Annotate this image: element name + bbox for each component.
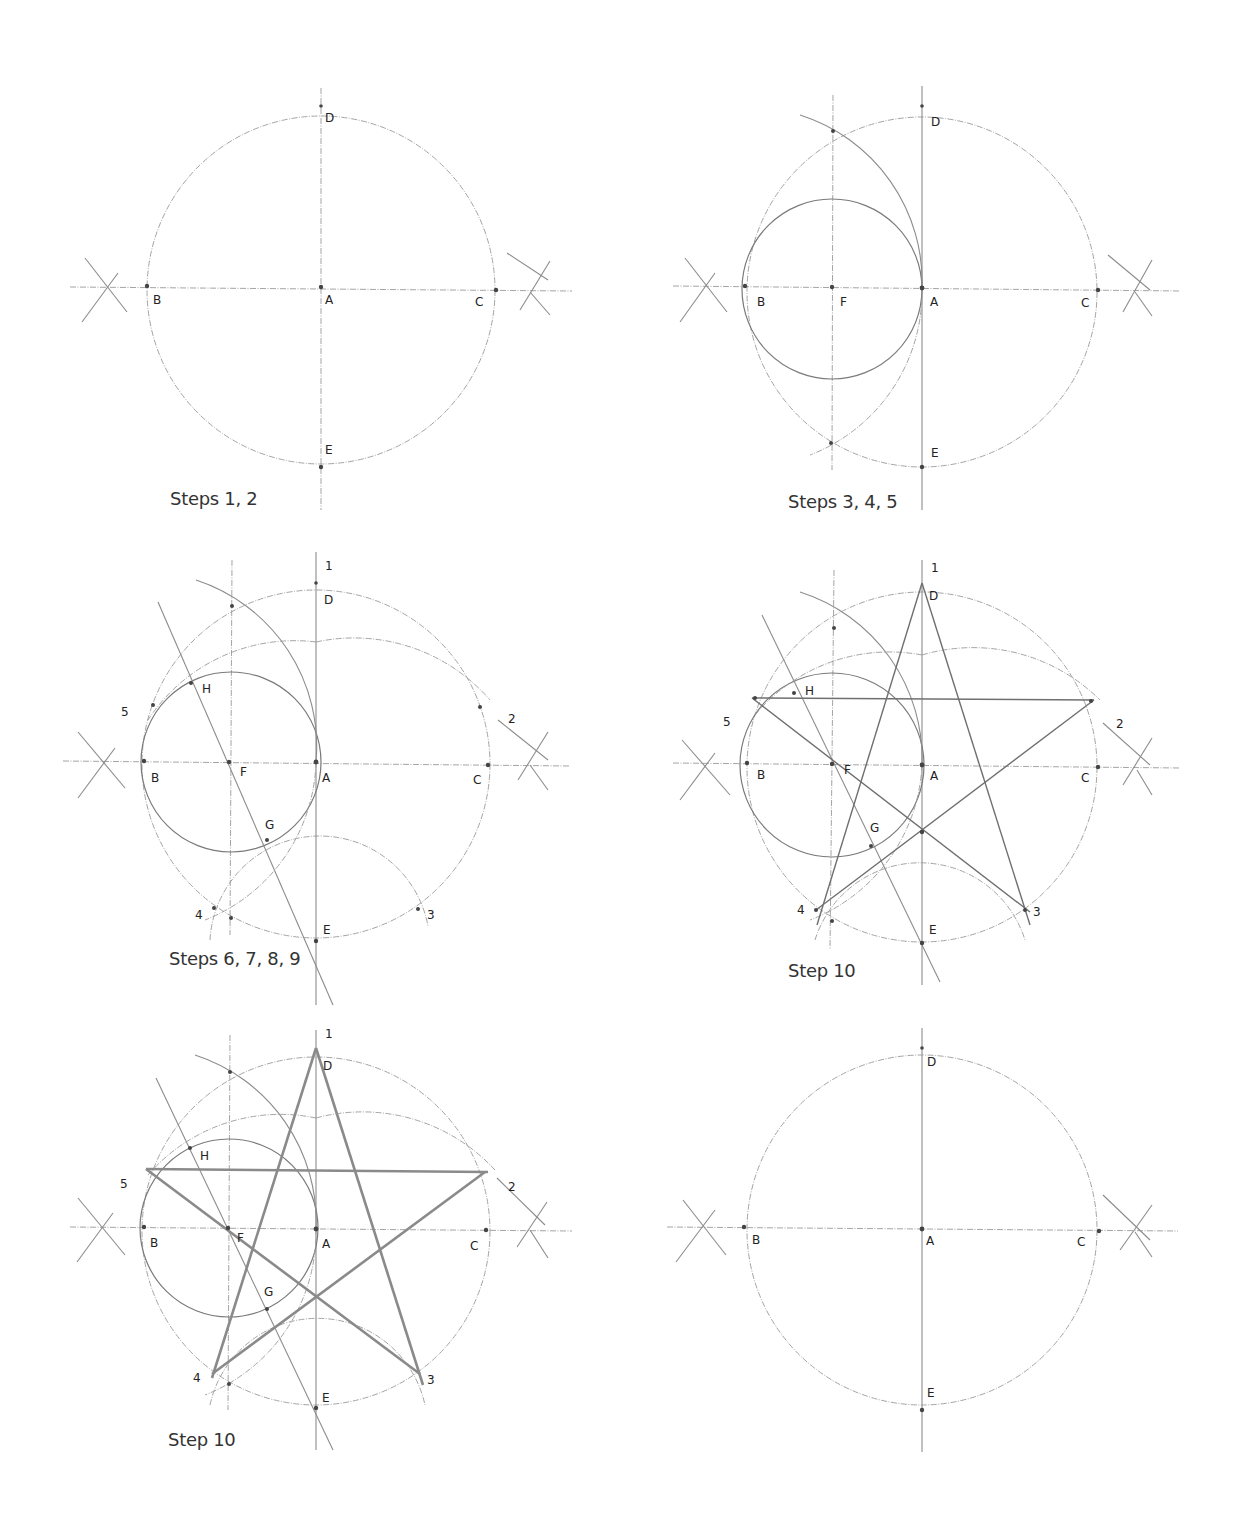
label-c: C xyxy=(1081,772,1089,784)
label-d: D xyxy=(927,1056,936,1068)
caption: Steps 3, 4, 5 xyxy=(788,491,897,512)
perpendicular-bisector-f xyxy=(832,95,833,470)
label-5: 5 xyxy=(120,1178,128,1190)
arc-cross-left xyxy=(680,258,727,322)
arc-cross-right xyxy=(1103,723,1152,795)
point-d xyxy=(319,104,323,108)
star-center-intersection xyxy=(920,830,924,834)
arc-intersection-top xyxy=(831,129,835,133)
arc-cross-right xyxy=(1103,1195,1152,1257)
label-b: B xyxy=(153,294,161,306)
arc-cross-right xyxy=(1108,255,1152,316)
point-2 xyxy=(1089,699,1093,703)
label-1: 1 xyxy=(931,562,939,574)
point-a xyxy=(314,1227,319,1232)
point-a xyxy=(314,760,319,765)
label-c: C xyxy=(475,296,483,308)
panel-blank-circle: D B A C E xyxy=(600,1000,1234,1523)
line-through-f-g-h xyxy=(158,602,333,1005)
label-c: C xyxy=(1077,1236,1085,1248)
point-g xyxy=(265,1307,269,1311)
arc-from-b-upper xyxy=(800,115,922,289)
point-4 xyxy=(814,908,818,912)
label-a: A xyxy=(930,296,938,308)
panel-steps-6-7-8-9: 1 D H 5 2 B F A C G 4 3 E Steps 6, 7, 8,… xyxy=(0,520,617,1000)
label-a: A xyxy=(322,772,330,784)
arc-to-point-5 xyxy=(148,1114,316,1175)
caption: Step 10 xyxy=(788,960,856,981)
point-3 xyxy=(1023,908,1027,912)
label-b: B xyxy=(150,1237,158,1249)
label-d: D xyxy=(324,594,333,606)
label-f: F xyxy=(240,766,247,778)
arc-intersection-top xyxy=(230,604,234,608)
construction-drawing xyxy=(600,1000,1234,1523)
point-a xyxy=(319,285,323,289)
label-3: 3 xyxy=(1033,906,1041,918)
arc-cross-right xyxy=(498,720,548,790)
caption: Steps 1, 2 xyxy=(170,488,257,509)
panel-steps-1-2: D B A C E Steps 1, 2 xyxy=(0,0,617,520)
label-c: C xyxy=(473,774,481,786)
caption: Steps 6, 7, 8, 9 xyxy=(169,948,300,969)
point-h xyxy=(189,681,193,685)
label-3: 3 xyxy=(427,1374,435,1386)
point-d xyxy=(920,1046,924,1050)
arc-to-point-5 xyxy=(755,652,922,715)
arc-cross-left xyxy=(680,740,730,800)
label-d: D xyxy=(323,1060,332,1072)
label-b: B xyxy=(151,772,159,784)
point-h xyxy=(188,1146,192,1150)
label-2: 2 xyxy=(508,713,516,725)
label-d: D xyxy=(929,590,938,602)
label-a: A xyxy=(930,770,938,782)
point-f xyxy=(830,762,834,766)
label-g: G xyxy=(264,1286,273,1298)
arc-intersection-bottom xyxy=(229,916,233,920)
label-e: E xyxy=(322,1392,330,1404)
arc-to-point-2 xyxy=(316,1112,495,1170)
construction-drawing xyxy=(0,0,617,520)
point-a xyxy=(920,763,925,768)
panel-steps-3-4-5: D B F A C E Steps 3, 4, 5 xyxy=(600,0,1234,520)
label-4: 4 xyxy=(195,909,203,921)
label-a: A xyxy=(325,294,333,306)
label-a: A xyxy=(926,1235,934,1247)
label-5: 5 xyxy=(723,716,731,728)
arc-to-point-5 xyxy=(148,641,316,720)
point-e xyxy=(319,465,323,469)
arc-intersection-bottom xyxy=(830,919,834,923)
construction-drawing xyxy=(600,520,1234,1000)
panel-step-10-final-star: 1 D H 5 2 B F A C G 4 3 E Step 10 xyxy=(0,1000,617,1523)
label-5: 5 xyxy=(121,706,129,718)
point-c xyxy=(484,1228,488,1232)
arc-intersection-bottom xyxy=(829,441,833,445)
point-e xyxy=(920,941,924,945)
point-b xyxy=(145,284,149,288)
arc-intersection-bottom xyxy=(227,1382,231,1386)
point-b xyxy=(743,284,747,288)
label-b: B xyxy=(757,296,765,308)
label-c: C xyxy=(470,1240,478,1252)
construction-drawing xyxy=(0,520,617,1000)
point-e xyxy=(920,1408,924,1412)
point-f xyxy=(227,760,231,764)
point-b xyxy=(142,759,146,763)
label-f: F xyxy=(237,1232,244,1244)
caption: Step 10 xyxy=(168,1429,236,1450)
point-c xyxy=(1096,765,1100,769)
label-e: E xyxy=(323,924,331,936)
point-e xyxy=(920,465,924,469)
label-e: E xyxy=(927,1387,935,1399)
point-c xyxy=(1096,288,1100,292)
label-b: B xyxy=(752,1234,760,1246)
label-e: E xyxy=(325,444,333,456)
arc-to-point-2 xyxy=(316,638,490,700)
label-h: H xyxy=(805,685,814,697)
arc-cross-left xyxy=(77,1198,125,1262)
point-a xyxy=(920,286,925,291)
point-d xyxy=(920,104,924,108)
label-1: 1 xyxy=(325,1028,333,1040)
arc-cross-left xyxy=(78,732,125,798)
construction-drawing xyxy=(600,0,1234,520)
